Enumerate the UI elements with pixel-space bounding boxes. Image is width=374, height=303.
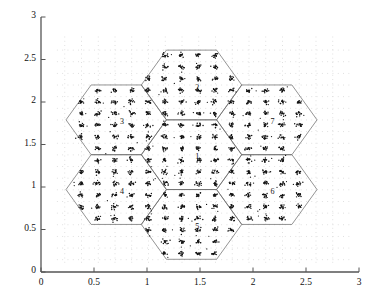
y-tick-label-5: 2.5	[24, 53, 36, 63]
x-tick-label-0: 0	[21, 277, 61, 287]
x-tick-label-6: 3	[339, 277, 374, 287]
x-tick-label-2: 1	[127, 277, 167, 287]
x-tick-label-5: 2.5	[286, 277, 326, 287]
x-tick-label-4: 2	[233, 277, 273, 287]
background-grid	[57, 37, 349, 263]
x-tick-label-3: 1.5	[180, 277, 220, 287]
cell-label-4: 4	[120, 187, 124, 196]
y-tick-label-1: 0.5	[24, 223, 36, 233]
cell-label-6: 6	[270, 187, 274, 196]
cell-label-2: 2	[195, 83, 199, 92]
y-tick-label-2: 1	[31, 180, 36, 190]
x-tick-label-1: 0.5	[74, 277, 114, 287]
y-tick-label-4: 2	[31, 95, 36, 105]
y-tick-label-3: 1.5	[24, 138, 36, 148]
cell-label-1: 1	[195, 152, 199, 161]
hexagon-cell-3	[66, 85, 166, 155]
y-tick-label-6: 3	[31, 10, 36, 20]
scatter-plot: 1234567	[0, 0, 374, 303]
y-tick-label-0: 0	[31, 265, 36, 275]
hexagon-cell-6	[217, 155, 317, 225]
cell-label-5: 5	[195, 222, 199, 231]
hexagon-cells	[66, 50, 317, 259]
hexagon-cell-7	[217, 85, 317, 155]
figure-container: 1234567 00.511.522.5300.511.522.53	[0, 0, 374, 303]
axes	[41, 17, 359, 272]
cell-label-3: 3	[120, 117, 124, 126]
cell-label-7: 7	[270, 117, 274, 126]
